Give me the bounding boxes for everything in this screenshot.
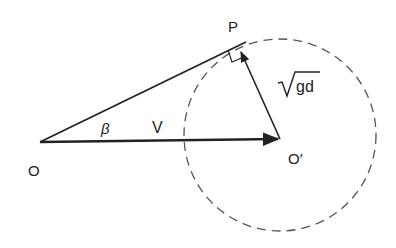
label-o-prime: O′ (288, 150, 303, 167)
label-beta: β (100, 120, 110, 137)
tangent-velocity-diagram: P O O′ β V gd (0, 0, 396, 248)
label-p: P (228, 18, 238, 35)
label-sqrt-gd: gd (278, 72, 320, 96)
label-o: O (28, 162, 40, 179)
dashed-circle (184, 39, 376, 231)
tangent-line-op (40, 42, 246, 142)
vector-v-arrow (40, 139, 278, 142)
vector-sqrt-gd-arrow (241, 52, 280, 139)
label-v: V (152, 119, 163, 136)
label-sqrt-arg: gd (296, 78, 314, 95)
